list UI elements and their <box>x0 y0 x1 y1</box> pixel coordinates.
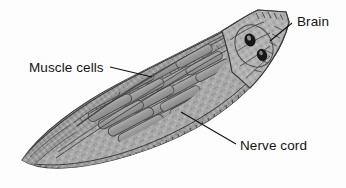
label-brain: Brain <box>297 14 329 29</box>
label-muscle-cells: Muscle cells <box>29 60 104 75</box>
organism-illustration <box>0 0 346 188</box>
label-nerve-cord: Nerve cord <box>240 138 307 153</box>
figure-canvas: Brain Muscle cells Nerve cord <box>0 0 346 188</box>
